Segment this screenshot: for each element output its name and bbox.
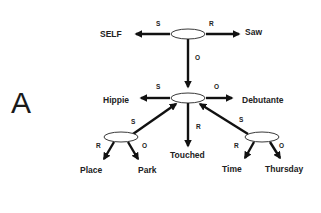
edge-right-sub-to-time xyxy=(245,142,254,158)
panel-label: A xyxy=(11,86,31,119)
edge-label-top-self: S xyxy=(156,20,161,27)
node-top-ellipse xyxy=(171,29,205,39)
edge-label-right-sub-time: R xyxy=(234,142,239,149)
node-label-hippie: Hippie xyxy=(103,95,129,105)
edge-label-middle-debutante: O xyxy=(214,83,219,90)
edge-label-left-sub-place: R xyxy=(96,142,101,149)
node-label-self: SELF xyxy=(100,29,122,39)
edge-left-sub-to-middle xyxy=(133,104,176,134)
edge-left-sub-to-place xyxy=(104,142,114,159)
edge-label-left-sub-park: O xyxy=(142,142,147,149)
node-label-debutante: Debutante xyxy=(242,95,284,105)
edge-left-sub-to-park xyxy=(128,142,138,159)
edge-label-right-sub-middle: S xyxy=(239,116,244,123)
node-label-saw: Saw xyxy=(245,27,262,37)
node-right-sub-ellipse xyxy=(245,132,279,142)
edge-label-middle-touched: R xyxy=(196,123,201,130)
edge-label-top-saw: R xyxy=(209,20,214,27)
edge-label-middle-hippie: S xyxy=(156,83,161,90)
node-label-touched: Touched xyxy=(170,150,205,160)
node-label-park: Park xyxy=(138,165,157,175)
edge-label-right-sub-thursday: O xyxy=(279,142,284,149)
node-middle-ellipse xyxy=(171,93,205,103)
node-label-thursday: Thursday xyxy=(265,164,304,174)
semantic-network-diagram: A SELF Saw Hippie Debutante Touched Plac… xyxy=(0,0,321,213)
node-left-sub-ellipse xyxy=(104,132,138,142)
node-label-time: Time xyxy=(222,164,242,174)
edge-label-top-middle: O xyxy=(195,54,200,61)
edge-label-left-sub-middle: S xyxy=(131,118,136,125)
node-label-place: Place xyxy=(80,165,102,175)
